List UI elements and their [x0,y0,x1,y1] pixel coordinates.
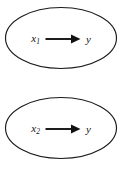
ellipse-node-2: x2 y [0,90,122,168]
arrow-right-icon-1 [45,33,81,45]
ellipse-node-1: x1 y [0,0,122,78]
relation-row-1: x1 y [0,0,122,78]
arrow-right-icon-2 [45,123,81,135]
effect-variable-label-1: y [86,34,91,45]
effect-variable-label-2: y [86,124,91,135]
diagram-canvas: x1 y x2 y [0,0,122,170]
cause-variable-label-1: x1 [31,33,40,46]
relation-row-2: x2 y [0,90,122,168]
cause-variable-label-2: x2 [31,123,40,136]
